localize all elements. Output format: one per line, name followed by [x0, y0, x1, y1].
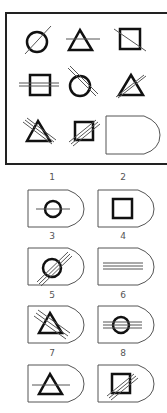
- option-1[interactable]: [28, 190, 84, 227]
- option-8[interactable]: [98, 365, 154, 402]
- option-7[interactable]: [28, 365, 84, 402]
- option-2[interactable]: [98, 190, 154, 227]
- option-6[interactable]: [98, 306, 154, 343]
- option-5[interactable]: [28, 306, 84, 343]
- option-3[interactable]: [28, 248, 84, 286]
- option-4[interactable]: [98, 248, 154, 285]
- options-area: [0, 0, 167, 413]
